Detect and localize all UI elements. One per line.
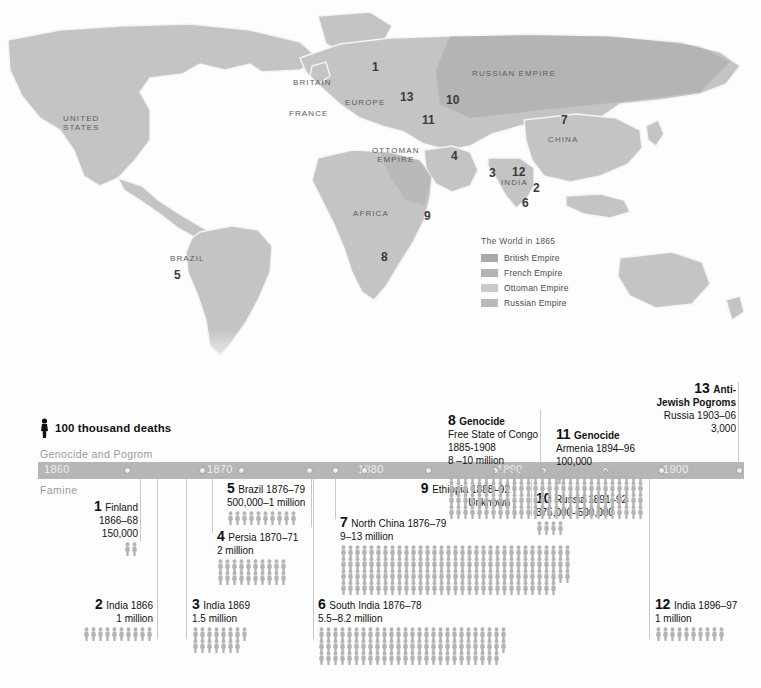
map-marker-13[interactable]: 13 (400, 90, 413, 104)
scale-key-label: 100 thousand deaths (55, 422, 171, 434)
timeline-tick-0[interactable] (124, 467, 131, 474)
timeline-tick-5[interactable] (361, 467, 368, 474)
person-figure-icon (192, 639, 199, 653)
timeline-tick-2[interactable] (238, 467, 245, 474)
map-marker-7[interactable]: 7 (561, 113, 568, 127)
map-legend-item-0: British Empire (481, 251, 601, 264)
map-label-united-states: UNITEDSTATES (63, 114, 100, 132)
person-figure-icon (504, 505, 511, 519)
entry-number: 5 (227, 480, 238, 496)
person-figure-icon (452, 581, 459, 595)
band-label-genocide: Genocide and Pogrom (40, 448, 153, 460)
person-figure-icon (486, 651, 493, 665)
map-label-india: INDIA (501, 178, 528, 187)
person-figure-icon (550, 581, 557, 595)
timeline-entry-1[interactable]: 1 Finland1866–68150,000 (60, 500, 138, 554)
person-figure-icon (448, 505, 455, 519)
person-figure-icon (564, 569, 571, 583)
legend-swatch-icon (481, 254, 498, 262)
timeline-entry-5[interactable]: 5 Brazil 1876–79500,000–1 million (227, 482, 330, 523)
figure-cluster (448, 469, 568, 517)
person-figure-icon (466, 581, 473, 595)
person-figure-icon (662, 627, 669, 641)
figure-row (448, 505, 568, 517)
timeline-entry-4[interactable]: 4 Persia 1870–712 million (217, 530, 332, 583)
person-figure-icon (602, 505, 609, 519)
entry-heading: 1 Finland (60, 500, 138, 514)
person-figure-icon (255, 511, 262, 525)
entry-heading: 3 India 1869 (192, 598, 302, 612)
map-marker-4[interactable]: 4 (451, 149, 458, 163)
timeline-tick-4[interactable] (332, 467, 339, 474)
figure-row (217, 571, 332, 583)
person-figure-icon (340, 581, 347, 595)
map-marker-2[interactable]: 2 (533, 181, 540, 195)
person-figure-icon (630, 505, 637, 519)
timeline-entry-7[interactable]: 7 North China 1876–799–13 million (340, 516, 535, 593)
timeline-entry-3[interactable]: 3 India 18691.5 million (192, 598, 302, 651)
map-marker-6[interactable]: 6 (522, 196, 529, 210)
map-marker-11[interactable]: 11 (422, 113, 435, 127)
map-label-russian-empire: RUSSIAN EMPIRE (472, 69, 556, 78)
person-figure-icon (479, 651, 486, 665)
person-figure-icon (490, 505, 497, 519)
figure-cluster (60, 542, 138, 554)
timeline-tick-3[interactable] (306, 467, 313, 474)
map-marker-1[interactable]: 1 (372, 60, 379, 74)
person-figure-icon (374, 651, 381, 665)
figure-cluster (35, 627, 153, 639)
map-marker-5[interactable]: 5 (174, 268, 181, 282)
timeline-panel: 100 thousand deaths Genocide and Pogrom … (0, 370, 761, 688)
person-figure-icon (515, 581, 522, 595)
person-figure-icon (480, 581, 487, 595)
person-figure-icon (588, 505, 595, 519)
person-figure-icon (536, 581, 543, 595)
person-figure-icon (676, 627, 683, 641)
person-figure-icon (375, 581, 382, 595)
person-figure-icon (280, 571, 287, 585)
map-legend-label: Russian Empire (504, 298, 567, 308)
person-figure-icon (718, 627, 725, 641)
timeline-entry-6[interactable]: 6 South India 1876–785.5–8.2 million (318, 598, 508, 663)
person-figure-icon (131, 542, 138, 556)
map-marker-8[interactable]: 8 (381, 250, 388, 264)
entry-name: North China 1876–79 (351, 518, 446, 529)
timeline-entry-2[interactable]: 2 India 18661 million (35, 598, 153, 639)
person-figure-icon (231, 571, 238, 585)
person-figure-icon (332, 651, 339, 665)
entry-name: India 1896–97 (674, 600, 737, 611)
person-figure-icon (487, 581, 494, 595)
timeline-tick-6[interactable] (425, 467, 432, 474)
timeline-entry-11[interactable]: 11 GenocideArmenia 1894–96100,000 (556, 428, 666, 482)
map-legend-item-3: Russian Empire (481, 296, 601, 309)
person-figure-icon (125, 627, 132, 641)
entry-number: 3 (192, 596, 203, 612)
map-legend-label: Ottoman Empire (504, 283, 569, 293)
map-label-ottoman-empire: OTTOMANEMPIRE (372, 146, 420, 164)
timeline-tick-1[interactable] (199, 467, 206, 474)
map-label-china: CHINA (548, 135, 578, 144)
figure-row (536, 521, 646, 533)
person-figure-icon (556, 470, 563, 484)
person-figure-icon (409, 651, 416, 665)
figure-row (556, 470, 666, 482)
map-marker-9[interactable]: 9 (424, 209, 431, 223)
timeline-entry-12[interactable]: 12 India 1896–971 million (655, 598, 760, 639)
entry-toll: 500,000–1 million (227, 496, 330, 509)
person-figure-icon (532, 505, 539, 519)
map-marker-10[interactable]: 10 (446, 93, 459, 107)
timeline-entry-8[interactable]: 8 GenocideFree State of Congo1885-19088 … (448, 414, 568, 517)
person-figure-icon (483, 505, 490, 519)
figure-row (318, 651, 508, 663)
timeline-year-1870: 1870 (207, 463, 233, 475)
timeline-entry-13[interactable]: 13 Anti-Jewish PogromsRussia 1903–063,00… (613, 382, 736, 435)
entry-number: 7 (340, 514, 351, 530)
legend-swatch-icon (481, 284, 498, 292)
map-marker-12[interactable]: 12 (512, 165, 525, 179)
person-figure-icon (290, 511, 297, 525)
person-figure-icon (381, 651, 388, 665)
figure-row (35, 627, 153, 639)
map-marker-3[interactable]: 3 (489, 166, 496, 180)
person-figure-icon (389, 581, 396, 595)
timeline-tick-11[interactable] (736, 467, 743, 474)
